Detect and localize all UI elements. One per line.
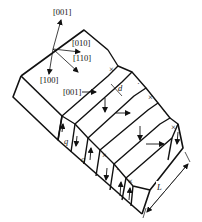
mark-cross-1: × [109,64,114,74]
axis-label-110: [110] [73,53,91,63]
arrow-down-5 [177,132,178,144]
domain-diagram: [001] [010] [110] [100] [0,0,202,222]
divider-6 [122,178,126,200]
label-L: L [156,182,162,192]
axis-label-010: [010] [72,38,91,48]
mark-dot-2: · [163,106,166,116]
axis-001-arrow [53,20,61,49]
divider-1 [58,116,62,140]
arrow-up-4 [129,188,130,200]
mark-dot-1: · [137,78,140,88]
arrow-up-1 [62,124,63,132]
mark-cross-3: × [171,122,176,132]
mark-cross-5: × [128,176,133,186]
label-q1: q [64,136,69,146]
divider-5 [110,164,114,190]
axis-label-001: [001] [53,7,72,17]
block-right-face [142,124,183,214]
axis-label-100: [100] [40,75,59,85]
L-dimension [143,152,190,218]
L-tick-right [185,152,190,162]
divider-7 [131,186,133,206]
arrow-up-2 [90,148,91,160]
wall-4 [100,103,170,164]
mark-dot-3: · [116,164,119,174]
mark-cross-4: × [102,150,107,160]
mark-cross-2: × [148,92,153,102]
block-top-edge [21,30,108,76]
wall-2 [75,72,146,138]
label-d: d [118,83,123,93]
wall-5 [114,118,178,178]
face-label-001: [001] [63,87,82,97]
arrow-down-3 [76,136,77,146]
arrow-up-3 [120,182,121,196]
L-arrow-left [147,164,188,212]
divider-4 [96,150,100,176]
divider-2 [71,124,75,152]
arrow-down-4 [106,168,107,180]
